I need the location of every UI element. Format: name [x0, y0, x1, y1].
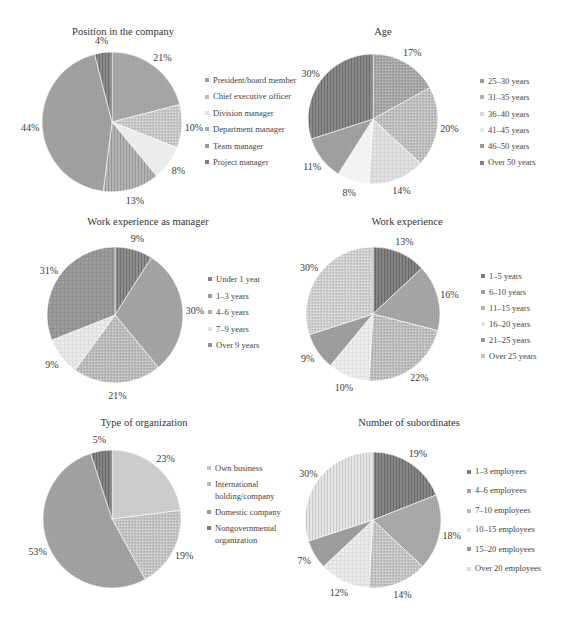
legend-label: 1–3 employees: [475, 462, 526, 481]
legend-item: Own business: [207, 462, 289, 474]
legend-item: 21–25 years: [481, 332, 537, 348]
chart-title-age: Age: [273, 25, 493, 39]
legend-item: Project manager: [205, 154, 296, 170]
percent-label: 30%: [186, 305, 204, 316]
legend-item: Over 9 years: [208, 337, 260, 354]
legend-label: President/board member: [213, 72, 296, 88]
legend-item: 10–15 employees: [467, 520, 541, 539]
legend-item: 7–10 employees: [467, 501, 541, 520]
legend-swatch: [480, 144, 484, 148]
legend-swatch: [207, 466, 211, 470]
chart-title-number-of-subordinates: Number of subordinates: [299, 416, 519, 430]
legend-item: 1–3 employees: [467, 462, 541, 481]
legend-swatch: [481, 290, 485, 294]
percent-label: 12%: [330, 587, 348, 598]
legend-swatch: [480, 112, 484, 116]
legend-swatch: [467, 547, 471, 551]
percent-label: 23%: [156, 453, 174, 464]
percent-label: 7%: [297, 555, 310, 566]
legend-item: Domestic company: [207, 506, 289, 518]
percent-label: 19%: [409, 448, 427, 459]
legend-swatch: [207, 510, 211, 514]
percent-label: 10%: [185, 122, 203, 133]
percent-label: 9%: [45, 359, 58, 370]
pie-work-experience-as-manager: 9%30%21%9%31%: [40, 233, 204, 401]
legend-label: Over 25 years: [489, 348, 537, 364]
percent-label: 11%: [303, 161, 321, 172]
legend-work-experience: 1–5 years 6–10 years 11–15 years 16–20 y…: [481, 268, 537, 364]
legend-swatch: [205, 111, 209, 115]
pie-work-experience: 13%16%22%10%9%30%: [300, 236, 459, 393]
percent-label: 30%: [299, 468, 317, 479]
legend-type-of-organization: Own business International holding/compa…: [207, 462, 289, 550]
legend-swatch: [467, 489, 471, 493]
legend-label: 10–15 employees: [475, 520, 535, 539]
legend-label: 4–6 employees: [475, 481, 526, 500]
legend-work-experience-as-manager: Under 1 year 1–3 years 4–6 years 7–9 yea…: [208, 271, 260, 354]
legend-label: Nongovernmental organization: [215, 522, 285, 546]
legend-label: 1–5 years: [489, 268, 522, 284]
legend-swatch: [480, 95, 484, 99]
legend-item: 1–3 years: [208, 288, 260, 305]
legend-label: 36–40 years: [488, 106, 529, 122]
percent-label: 13%: [395, 236, 413, 247]
legend-swatch: [481, 354, 485, 358]
legend-item: Nongovernmental organization: [207, 522, 289, 546]
legend-swatch: [205, 95, 209, 99]
legend-label: Over 9 years: [216, 337, 259, 354]
pie-position-in-company: 21%10%8%13%44%4%: [21, 35, 203, 206]
legend-swatch: [481, 322, 485, 326]
legend-number-of-subordinates: 1–3 employees 4–6 employees 7–10 employe…: [467, 462, 541, 578]
percent-label: 18%: [442, 530, 460, 541]
legend-swatch: [481, 338, 485, 342]
legend-swatch: [481, 274, 485, 278]
legend-item: President/board member: [205, 72, 296, 88]
legend-swatch: [208, 294, 212, 298]
percent-label: 53%: [29, 546, 47, 557]
legend-swatch: [208, 343, 212, 347]
legend-swatch: [205, 78, 209, 82]
legend-label: Division manager: [213, 105, 274, 121]
legend-label: International holding/company: [215, 478, 285, 502]
legend-item: 7–9 years: [208, 321, 260, 338]
legend-item: 4–6 years: [208, 304, 260, 321]
chart-title-work-experience: Work experience: [297, 215, 517, 229]
legend-item: 46–50 years: [480, 138, 536, 154]
legend-item: International holding/company: [207, 478, 289, 502]
legend-swatch: [205, 160, 209, 164]
legend-swatch: [467, 567, 471, 571]
legend-item: Over 50 years: [480, 154, 536, 170]
percent-label: 14%: [392, 185, 410, 196]
legend-label: 41–45 years: [488, 122, 529, 138]
legend-label: 4–6 years: [216, 304, 249, 321]
legend-label: Own business: [215, 462, 285, 474]
pie-age: 17%20%14%8%11%30%: [302, 47, 459, 198]
legend-item: 11–15 years: [481, 300, 537, 316]
percent-label: 13%: [126, 195, 144, 206]
legend-label: 15–20 employees: [475, 540, 535, 559]
legend-label: 16–20 years: [489, 316, 530, 332]
percent-label: 16%: [440, 289, 458, 300]
legend-swatch: [205, 144, 209, 148]
legend-label: Project manager: [213, 154, 268, 170]
legend-label: Team manager: [213, 138, 263, 154]
percent-label: 14%: [393, 589, 411, 600]
percent-label: 5%: [93, 434, 106, 445]
legend-swatch: [208, 277, 212, 281]
percent-label: 21%: [108, 390, 126, 401]
legend-swatch: [208, 310, 212, 314]
percent-label: 30%: [302, 68, 320, 79]
legend-label: 6–10 years: [489, 284, 526, 300]
legend-label: 7–10 employees: [475, 501, 530, 520]
chart-title-type-of-organization: Type of organization: [34, 416, 254, 430]
legend-item: 25–30 years: [480, 73, 536, 89]
legend-label: 7–9 years: [216, 321, 249, 338]
percent-label: 10%: [335, 382, 353, 393]
legend-label: Under 1 year: [216, 271, 260, 288]
legend-swatch: [480, 161, 484, 165]
percent-label: 44%: [21, 122, 39, 133]
legend-age: 25–30 years 31–35 years 36–40 years 41–4…: [480, 73, 536, 171]
percent-label: 22%: [410, 372, 428, 383]
percent-label: 8%: [343, 187, 356, 198]
percent-label: 9%: [131, 233, 144, 244]
